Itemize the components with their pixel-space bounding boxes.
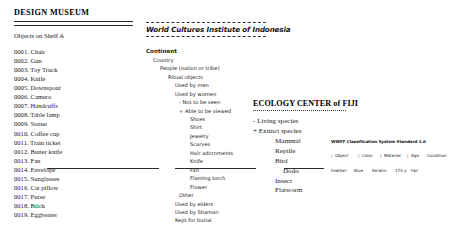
connector-line-dodo-to-feather	[284, 168, 324, 169]
object-list-item: 0019. Eggbeater	[14, 210, 144, 219]
tree-node: Flatworm	[253, 186, 349, 196]
table-cell: 175 y	[395, 168, 411, 173]
table-column-header: Color	[362, 153, 380, 158]
world-cultures-panel: World Cultures Institute of Indonesia Co…	[146, 22, 268, 225]
tree-node: Scarves	[146, 140, 268, 148]
tree-node: Kept for burial	[146, 216, 268, 224]
object-list-item: 0007. Handcuffs	[14, 101, 144, 110]
table-cell: Blue	[354, 168, 372, 173]
tree-node: Flower	[146, 183, 268, 191]
tree-node: Ritual objects	[146, 73, 268, 81]
wwff-table-title: WWFF Classification System Standard 1.0	[331, 139, 439, 144]
tree-node: Used by Shaman	[146, 208, 268, 216]
tree-node: Shirt	[146, 123, 268, 131]
wwff-table-header-row: |Object|Color|Material|AgeCondition	[331, 153, 439, 158]
object-list-item: 0011. Train ticket	[14, 138, 144, 147]
object-list-item: 0003. Toy Truck	[14, 65, 144, 74]
tree-node: Country	[146, 56, 268, 64]
tree-node: Used by elders	[146, 200, 268, 208]
object-list-item: 0016. Cat pillow	[14, 183, 144, 192]
table-column-header: Condition	[427, 153, 449, 158]
object-list-item: 0013. Fan	[14, 156, 144, 165]
tree-node: Continent	[146, 47, 268, 55]
table-row: FeatherBlueKeratin175 yFair	[331, 168, 439, 173]
table-cell: Fair	[411, 168, 433, 173]
tree-node: Used by women	[146, 90, 268, 98]
tree-node: Hair adornments	[146, 149, 268, 157]
rule-bottom	[14, 25, 133, 26]
object-list-item: 0005. Downspout	[14, 83, 144, 92]
object-list-item: 0001. Chair	[14, 47, 144, 56]
wwff-table-body: FeatherBlueKeratin175 yFair	[331, 168, 439, 173]
tree-node: + Extinct species	[253, 127, 349, 137]
tree-node: + Able to be viewed	[146, 107, 268, 115]
object-list-item: 0012. Butter knife	[14, 147, 144, 156]
tree-node: Flaming torch	[146, 174, 268, 182]
table-column-header: Age	[411, 153, 427, 158]
wwff-table-panel: WWFF Classification System Standard 1.0 …	[331, 139, 439, 173]
object-list-item: 0018. Brick	[14, 201, 144, 210]
design-museum-rules	[14, 21, 133, 26]
tree-node: - Not to be seen	[146, 98, 268, 106]
tree-node: Insect	[253, 177, 349, 187]
connector-line-fan-to-dodo	[175, 168, 256, 169]
tree-node: Used by men	[146, 81, 268, 89]
dashed-rule-bottom	[146, 36, 266, 37]
dotted-rule	[253, 110, 346, 111]
object-list-item: 0015. Sunglasses	[14, 174, 144, 183]
object-list-item: 0010. Coffee cup	[14, 129, 144, 138]
object-list-item: 0009. Statue	[14, 119, 144, 128]
world-cultures-title: World Cultures Institute of Indonesia	[146, 25, 268, 34]
object-list-item: 0008. Table lamp	[14, 110, 144, 119]
table-cell: Feather	[331, 168, 354, 173]
design-museum-subtitle: Objects on Shelf A	[14, 32, 144, 39]
object-list-item: 0006. Camera	[14, 92, 144, 101]
table-column-header: Object	[335, 153, 358, 158]
object-list-item: 0017. Purse	[14, 192, 144, 201]
world-cultures-tree: ContinentCountryPeople (nation or tribe)…	[146, 47, 268, 225]
connector-line-fan-to-fan	[47, 168, 159, 169]
object-list-item: 0002. Gun	[14, 56, 144, 65]
tree-node: Other	[146, 191, 268, 199]
rule-top	[14, 21, 133, 22]
object-list-item: 0014. Envelope	[14, 165, 144, 174]
tree-node: Jewelry	[146, 132, 268, 140]
tree-node: - Living species	[253, 117, 349, 127]
ecology-center-title: ECOLOGY CENTER of FIJI	[253, 99, 349, 108]
object-list-item: 0004. Knife	[14, 74, 144, 83]
tree-node: Knife	[146, 157, 268, 165]
tree-node: Shoes	[146, 115, 268, 123]
table-column-header: Material	[384, 153, 407, 158]
table-cell: Keratin	[372, 168, 395, 173]
design-museum-title: DESIGN MUSEUM	[14, 8, 144, 17]
tree-node: People (nation or tribe)	[146, 64, 268, 72]
dashed-rule-top	[146, 22, 266, 23]
design-museum-panel: DESIGN MUSEUM Objects on Shelf A 0001. C…	[14, 8, 144, 219]
design-museum-object-list: 0001. Chair0002. Gun0003. Toy Truck0004.…	[14, 47, 144, 219]
